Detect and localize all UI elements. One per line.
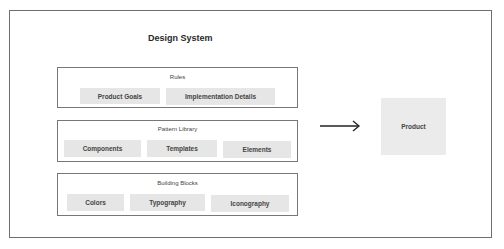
group-label: Building Blocks bbox=[58, 180, 297, 186]
node-iconography: Iconography bbox=[211, 195, 289, 212]
group-label: Rules bbox=[58, 74, 297, 80]
node-colors: Colors bbox=[67, 194, 124, 211]
diagram-title: Design System bbox=[148, 33, 213, 43]
node-product: Product bbox=[381, 98, 446, 155]
node-typography: Typography bbox=[130, 194, 205, 211]
node-templates: Templates bbox=[147, 140, 217, 157]
node-product-goals: Product Goals bbox=[80, 88, 160, 104]
node-implementation-details: Implementation Details bbox=[166, 88, 275, 105]
group-label: Pattern Library bbox=[58, 126, 297, 132]
arrow-right-icon bbox=[320, 120, 362, 132]
node-components: Components bbox=[64, 140, 141, 157]
node-elements: Elements bbox=[223, 141, 291, 158]
